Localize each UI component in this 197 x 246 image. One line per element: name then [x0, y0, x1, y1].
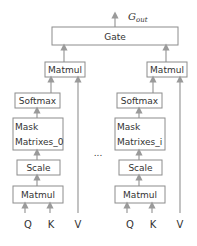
softmax-label: Softmax — [121, 96, 159, 106]
v-label: V — [75, 219, 82, 230]
matmul-out-label: Matmul — [48, 65, 82, 75]
output-label: Gout — [128, 11, 148, 24]
k-label: K — [150, 219, 157, 230]
mask-label-2: Matrixes_i — [117, 137, 162, 147]
q-label: Q — [24, 219, 32, 230]
head-0: Matmul Softmax Mask Matrixes_0 Scale Mat… — [13, 47, 85, 230]
q-label: Q — [126, 219, 134, 230]
v-label: V — [177, 219, 184, 230]
ellipsis: ... — [94, 148, 103, 158]
attention-gate-diagram: Gout Gate Matmul Softmax Mask Matrixes_0… — [0, 0, 197, 246]
k-label: K — [48, 219, 55, 230]
mask-label-1: Mask — [15, 122, 39, 132]
mask-label-1: Mask — [117, 122, 141, 132]
matmul-in-label: Matmul — [123, 190, 157, 200]
matmul-out-label: Matmul — [150, 65, 184, 75]
mask-label-2: Matrixes_0 — [15, 137, 64, 147]
scale-label: Scale — [128, 163, 153, 173]
scale-label: Scale — [26, 163, 51, 173]
softmax-label: Softmax — [19, 96, 57, 106]
gate-label: Gate — [104, 32, 126, 42]
matmul-in-label: Matmul — [21, 190, 55, 200]
head-i: Matmul Softmax Mask Matrixes_i Scale Mat… — [115, 47, 187, 230]
